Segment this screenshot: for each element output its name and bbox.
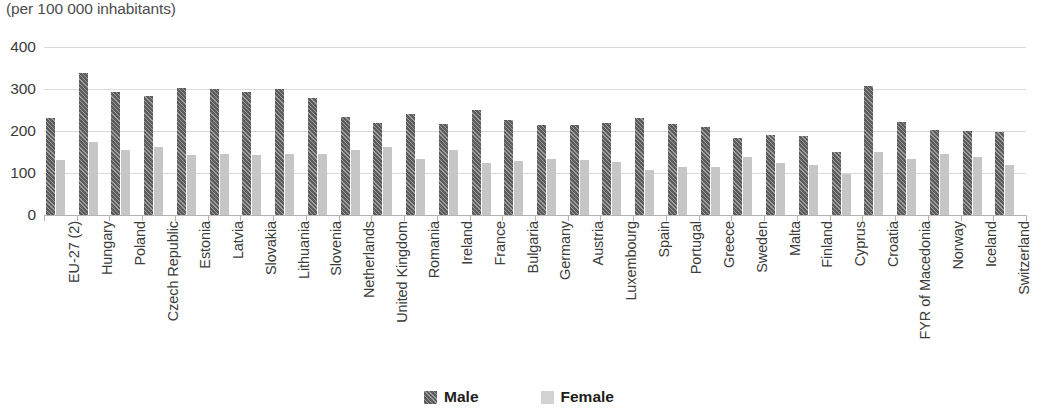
x-axis-label: Ireland <box>459 221 475 371</box>
bar-male <box>79 73 88 215</box>
bar-male <box>668 124 677 215</box>
bar-group <box>961 47 994 215</box>
bar-male <box>963 131 972 215</box>
bar-male <box>46 118 55 215</box>
x-axis-label: Switzerland <box>1016 221 1032 371</box>
bar-group <box>731 47 764 215</box>
x-axis-label: Poland <box>132 221 148 371</box>
bar-male <box>733 138 742 215</box>
bar-male <box>897 122 906 215</box>
x-axis-label: Greece <box>721 221 737 371</box>
x-axis-label: EU-27 (2) <box>66 221 82 371</box>
bar-male <box>832 152 841 215</box>
bar-group <box>208 47 241 215</box>
bar-female <box>482 163 491 215</box>
bar-group <box>404 47 437 215</box>
bar-female <box>776 163 785 215</box>
x-axis-label: Estonia <box>197 221 213 371</box>
bar-female <box>220 154 229 215</box>
bar-female <box>842 174 851 215</box>
bar-group <box>764 47 797 215</box>
x-axis-label: Lithuania <box>296 221 312 371</box>
chart-legend: Male Female <box>0 388 1038 406</box>
bar-female <box>351 150 360 215</box>
bar-group <box>535 47 568 215</box>
legend-item-female[interactable]: Female <box>541 388 614 406</box>
bar-male <box>504 120 513 215</box>
bar-male <box>308 98 317 215</box>
bar-female <box>907 159 916 215</box>
bar-male <box>439 124 448 215</box>
x-axis-label: Portugal <box>688 221 704 371</box>
bar-female <box>318 154 327 215</box>
bar-group <box>437 47 470 215</box>
bar-female <box>612 162 621 215</box>
bar-female <box>449 150 458 215</box>
bar-female <box>580 160 589 215</box>
bar-chart: (per 100 000 inhabitants) 0100200300400 … <box>0 0 1038 416</box>
bar-female <box>711 167 720 215</box>
y-axis-tick-label: 100 <box>0 164 36 182</box>
x-axis-label: Latvia <box>230 221 246 371</box>
bar-female <box>809 165 818 215</box>
bar-male <box>864 86 873 215</box>
bar-group <box>633 47 666 215</box>
bar-male <box>144 96 153 215</box>
legend-swatch-female-icon <box>541 391 554 404</box>
bar-group <box>797 47 830 215</box>
y-axis-tick-label: 400 <box>0 38 36 56</box>
bar-group <box>502 47 535 215</box>
x-axis-labels: EU-27 (2)HungaryPolandCzech RepublicEsto… <box>44 221 1026 371</box>
x-axis-label: Bulgaria <box>525 221 541 371</box>
bar-male <box>111 92 120 215</box>
bar-group <box>928 47 961 215</box>
bar-male <box>242 92 251 215</box>
bar-group <box>666 47 699 215</box>
bar-male <box>799 136 808 215</box>
x-axis-label: Germany <box>557 221 573 371</box>
x-axis-label: Croatia <box>885 221 901 371</box>
x-axis-label: Slovenia <box>328 221 344 371</box>
bar-group <box>77 47 110 215</box>
x-axis-label: Slovakia <box>263 221 279 371</box>
bar-male <box>635 118 644 215</box>
bar-group <box>600 47 633 215</box>
legend-item-male[interactable]: Male <box>424 388 478 406</box>
bar-female <box>940 154 949 215</box>
bar-group <box>470 47 503 215</box>
bar-group <box>339 47 372 215</box>
bar-female <box>89 142 98 215</box>
bar-male <box>406 114 415 215</box>
bar-male <box>537 125 546 215</box>
x-axis-label: Cyprus <box>852 221 868 371</box>
bar-group <box>306 47 339 215</box>
x-axis-label: United Kingdom <box>394 221 410 371</box>
bar-group <box>862 47 895 215</box>
bar-female <box>383 147 392 215</box>
bar-male <box>995 132 1004 215</box>
bar-group <box>273 47 306 215</box>
bar-group <box>142 47 175 215</box>
bar-female <box>874 152 883 215</box>
bar-group <box>568 47 601 215</box>
x-axis-label: Czech Republic <box>165 221 181 371</box>
bar-group <box>699 47 732 215</box>
bar-female <box>285 154 294 215</box>
x-axis-label: Malta <box>787 221 803 371</box>
chart-subtitle: (per 100 000 inhabitants) <box>6 0 176 18</box>
x-axis-label: Norway <box>950 221 966 371</box>
x-axis-label: Austria <box>590 221 606 371</box>
x-axis-label: France <box>492 221 508 371</box>
bar-male <box>930 130 939 215</box>
bar-female <box>678 167 687 215</box>
bar-female <box>743 157 752 215</box>
bar-group <box>175 47 208 215</box>
legend-swatch-male-icon <box>424 391 437 404</box>
x-axis-label: Luxembourg <box>623 221 639 371</box>
bar-group <box>830 47 863 215</box>
bar-group <box>993 47 1026 215</box>
x-axis-label: Finland <box>819 221 835 371</box>
x-axis-label: FYR of Macedonia <box>917 221 933 371</box>
bar-male <box>766 135 775 215</box>
bar-female <box>973 157 982 215</box>
